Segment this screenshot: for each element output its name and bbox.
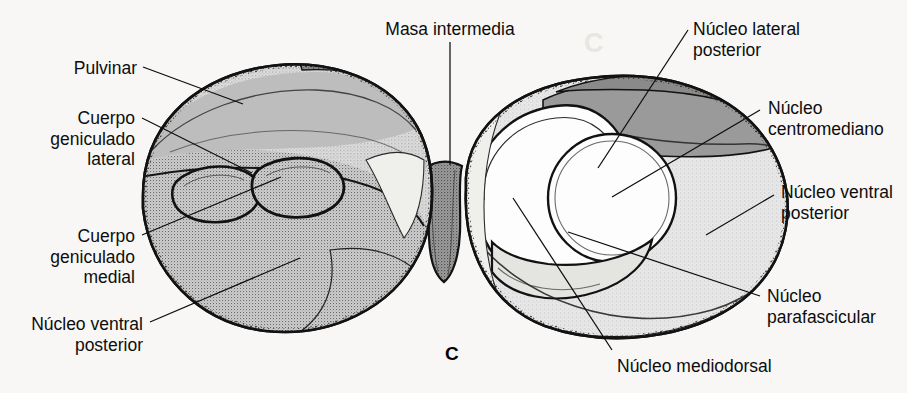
left-thalamus: [118, 59, 432, 345]
label-nucleo-ventral-posterior-right: Núcleo ventral posterior: [781, 182, 893, 223]
label-cuerpo-geniculado-lateral: Cuerpo geniculado lateral: [0, 108, 135, 170]
label-nucleo-parafascicular-text: Núcleo parafascicular: [767, 286, 876, 327]
label-masa-intermedia: Masa intermedia: [350, 19, 550, 40]
label-nucleo-centromediano: Núcleo centromediano: [768, 98, 884, 139]
label-nucleo-ventral-posterior-left: Núcleo ventral posterior: [0, 314, 143, 355]
label-nucleo-lateral-posterior-text: Núcleo lateral posterior: [693, 19, 800, 60]
label-nucleo-centromediano-text: Núcleo centromediano: [768, 98, 884, 139]
label-nucleo-lateral-posterior: Núcleo lateral posterior: [693, 19, 800, 60]
label-nucleo-mediodorsal: Núcleo mediodorsal: [617, 356, 772, 377]
label-pulvinar: Pulvinar: [0, 58, 137, 79]
label-nucleo-parafascicular: Núcleo parafascicular: [767, 286, 876, 327]
thalamus-figure: C: [0, 0, 907, 393]
label-cuerpo-geniculado-lateral-text: Cuerpo geniculado lateral: [50, 108, 135, 169]
label-cuerpo-geniculado-medial: Cuerpo geniculado medial: [0, 226, 135, 288]
panel-letter: C: [445, 343, 459, 365]
label-nucleo-ventral-posterior-right-text: Núcleo ventral posterior: [781, 182, 893, 223]
label-nucleo-ventral-posterior-left-text: Núcleo ventral posterior: [31, 314, 143, 355]
label-cuerpo-geniculado-medial-text: Cuerpo geniculado medial: [50, 226, 135, 287]
